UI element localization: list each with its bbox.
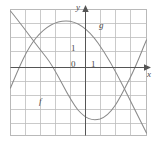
y-axis-label: y [76, 3, 80, 12]
y-tick-label-1: 1 [71, 44, 76, 53]
graph-figure: x y 0 1 1 f g [0, 0, 157, 145]
coordinate-plot [0, 0, 157, 145]
origin-label: 0 [71, 60, 76, 69]
x-axis-label: x [147, 70, 151, 79]
x-tick-label-1: 1 [91, 60, 96, 69]
curve-label-f: f [39, 97, 42, 106]
curve-label-g: g [99, 21, 104, 30]
plot-border [11, 10, 147, 136]
